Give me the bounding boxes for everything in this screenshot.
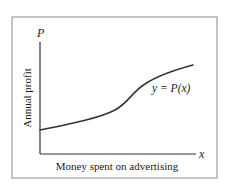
y-axis-symbol: P [36,26,45,40]
x-axis-symbol: x [198,147,205,161]
profit-curve [40,65,193,130]
profit-vs-advertising-diagram: P x y = P(x) Annual profit Money spent o… [0,0,228,188]
curve-label: y = P(x) [151,82,191,95]
y-axis-label: Annual profit [21,68,33,128]
x-axis-label: Money spent on advertising [56,160,179,172]
